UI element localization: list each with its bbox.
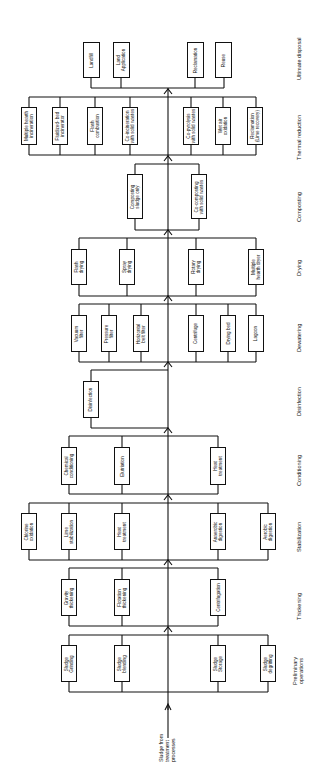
option-sludge-storage: Sludge Storage: [210, 645, 226, 682]
source-label: Sludge from treatment processes: [158, 734, 176, 762]
option-multiple-hearth-dryer: Multiple hearth dryer: [248, 249, 264, 285]
stage-label-preliminary-operations: Preliminary operations: [292, 657, 304, 685]
option-flash-drying: Flash drying: [71, 249, 87, 285]
option-disinfection: Disinfection: [83, 381, 99, 418]
sludge-processing-flow-diagram: Landfill Land Application Reclamation Re…: [0, 0, 320, 764]
option-land-application: Land Application: [113, 42, 130, 78]
option-reuse: Reuse: [215, 42, 232, 78]
option-multiple-hearth-incineration: Multiple hearth incineration: [21, 107, 37, 145]
option-fluidized-bed-incinerator: Fluidized- bed incinerator: [52, 107, 68, 145]
option-reclamation: Reclamation: [187, 42, 204, 78]
option-flotation-thickening: Flotation thickening: [114, 579, 130, 616]
stage-label-dewatering: Dewatering: [296, 324, 302, 352]
option-wet-air-oxidation: Wet air oxidation: [215, 107, 231, 145]
option-composting-sludge-only: Composting sludge only: [127, 174, 143, 219]
option-co-incineration: Co-incineration with solid wastes: [122, 107, 138, 145]
option-sludge-degritting: Sludge degritting: [260, 645, 276, 682]
option-chlorine-oxidation: Chlorine oxidation: [21, 513, 37, 550]
option-vacuum-filter: Vacuum filter: [71, 315, 87, 352]
option-sludge-grinding: Sludge Grinding: [61, 645, 77, 682]
option-centrifuge: Centrifuge: [188, 315, 204, 352]
option-drying-bed: Drying bed: [220, 315, 236, 352]
option-reclamation-lime-recovery: Reclamation (Lime recovery): [247, 107, 263, 145]
stage-label-ultimate-disposal: Ultimate disposal: [296, 37, 302, 80]
option-gravity-thickening: Gravity thickening: [61, 579, 77, 616]
option-landfill: Landfill: [83, 42, 100, 78]
stage-label-thermal-reduction: Thermal reduction: [296, 115, 302, 160]
option-co-pyrolysis: Co-pyrolysis with solid wastes: [183, 107, 199, 145]
stage-label-stabilization: Stabilization: [296, 522, 302, 552]
option-rotary-drying: Rotary drying: [188, 249, 204, 285]
option-lime-stabilization: Lime stabilization: [61, 513, 77, 550]
stage-label-composting: Composting: [296, 192, 302, 222]
option-heat-treatment-stabilization: Heat treatment: [114, 513, 130, 550]
option-flash-combustion: Flash combustion: [87, 107, 103, 145]
option-sludge-blending: Sludge blending: [114, 645, 130, 682]
option-aerobic-digestion: Aerobic digestion: [260, 513, 276, 550]
option-heat-treatment-conditioning: Heat treatment: [210, 447, 226, 485]
stage-label-drying: Drying: [296, 260, 302, 276]
option-elutriation: Elutriation: [114, 447, 130, 485]
option-horizontal-belt-filter: Horizontal belt filter: [133, 315, 149, 352]
stage-label-thickening: Thickening: [296, 593, 302, 620]
option-spray-drying: Spray drying: [119, 249, 135, 285]
option-lagoon: Lagoon: [248, 315, 264, 352]
option-centrifugation: Centrifugation: [210, 579, 226, 616]
stage-label-conditioning: Conditioning: [296, 455, 302, 486]
option-co-composting: Co-composting with solid wastes: [191, 174, 207, 219]
option-chemical-conditioning: Chemical conditioning: [61, 447, 77, 485]
option-anaerobic-digestion: Anaerobic digestion: [210, 513, 226, 550]
stage-label-disinfection: Disinfection: [296, 387, 302, 416]
option-pressure-filter: Pressure filter: [101, 315, 117, 352]
